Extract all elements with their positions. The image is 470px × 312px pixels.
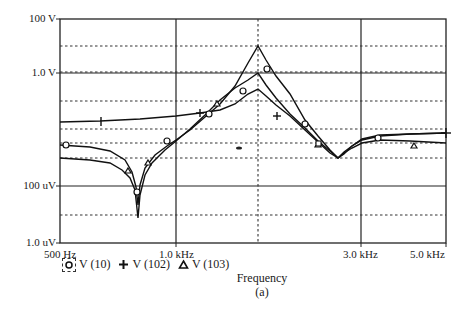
artifact-mark bbox=[236, 146, 242, 149]
y-label-100v: 100 V bbox=[4, 12, 56, 24]
legend-label: V (10) bbox=[79, 257, 110, 272]
legend-item-v102[interactable]: V (102) bbox=[118, 257, 169, 272]
legend-item-v103[interactable]: V (103) bbox=[178, 257, 229, 272]
series-v102-line bbox=[60, 89, 446, 158]
minor-gridlines bbox=[60, 19, 446, 243]
y-label-100uv: 100 uV bbox=[4, 179, 56, 191]
series-v10-markers bbox=[63, 66, 381, 195]
x-label-5khz: 5.0 kHz bbox=[410, 248, 445, 260]
series-v10-line bbox=[60, 46, 446, 205]
plot-frame bbox=[60, 19, 446, 243]
series-v102-markers bbox=[101, 109, 451, 138]
y-label-1uv: 1.0 uV bbox=[4, 236, 56, 248]
y-label-1v: 1.0 V bbox=[4, 66, 56, 78]
circle-marker-icon bbox=[62, 258, 76, 272]
legend-label: V (103) bbox=[192, 257, 229, 272]
series-square-markers bbox=[316, 141, 321, 146]
legend-label: V (102) bbox=[132, 257, 169, 272]
plus-marker-icon bbox=[118, 259, 129, 270]
figure-caption: (a) bbox=[232, 285, 292, 300]
series-v103-line bbox=[60, 73, 446, 218]
x-axis-title: Frequency bbox=[232, 271, 292, 286]
legend: V (10) V (102) V (103) bbox=[62, 257, 233, 272]
axis-ticks bbox=[56, 19, 446, 247]
legend-item-v10[interactable]: V (10) bbox=[62, 257, 110, 272]
major-gridlines bbox=[60, 19, 446, 243]
triangle-marker-icon bbox=[178, 259, 189, 270]
x-label-3khz: 3.0 kHz bbox=[343, 248, 378, 260]
